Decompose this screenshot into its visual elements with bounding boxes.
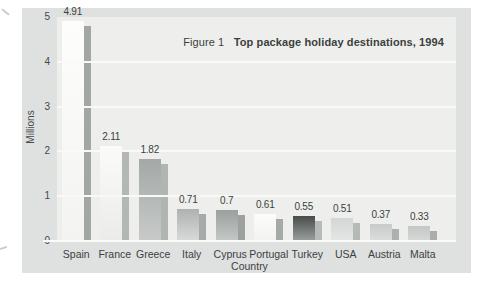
bar-chart: Figure 1 Top package holiday destination…	[22, 8, 471, 273]
bar-france	[100, 146, 129, 241]
bar-usa	[331, 218, 360, 241]
bar-cyprus	[216, 210, 245, 241]
gridline-3	[57, 106, 456, 108]
bar-value-label-malta: 0.33	[389, 211, 449, 222]
bar-side-shadow-italy	[199, 214, 206, 241]
bar-face-usa	[331, 218, 353, 241]
bar-face-austria	[370, 224, 392, 241]
chart-title: Figure 1 Top package holiday destination…	[183, 35, 444, 49]
bar-face-france	[100, 146, 122, 241]
bar-austria	[370, 224, 399, 241]
chart-title-prefix: Figure 1	[183, 36, 224, 48]
bar-value-label-spain: 4.91	[43, 6, 103, 17]
bar-value-label-france: 2.11	[81, 131, 141, 142]
y-tick-label-1: 1	[30, 190, 50, 202]
bar-malta	[408, 226, 437, 241]
chart-title-main: Top package holiday destinations, 1994	[234, 36, 444, 48]
bar-turkey	[293, 216, 322, 241]
scanned-page: Figure 1 Top package holiday destination…	[0, 0, 478, 282]
bar-italy	[177, 209, 206, 241]
gridline-4	[57, 61, 456, 63]
bar-portugal	[254, 214, 283, 241]
bar-side-shadow-turkey	[315, 221, 322, 241]
y-tick-label-3: 3	[30, 101, 50, 113]
y-tick-label-2: 2	[30, 145, 50, 157]
bar-face-italy	[177, 209, 199, 241]
bar-face-malta	[408, 226, 430, 241]
bar-face-cyprus	[216, 210, 238, 241]
x-category-label-malta: Malta	[393, 248, 453, 260]
y-tick-label-4: 4	[30, 56, 50, 68]
bar-side-shadow-cyprus	[238, 215, 245, 241]
bar-face-turkey	[293, 216, 315, 241]
scan-artifact-top	[1, 8, 9, 15]
scan-artifact-bottom	[0, 246, 7, 250]
x-axis-title: Country	[57, 260, 442, 272]
bar-value-label-greece: 1.82	[120, 144, 180, 155]
x-axis-baseline	[43, 240, 456, 242]
bar-side-shadow-portugal	[276, 219, 283, 241]
bar-side-shadow-usa	[353, 223, 360, 241]
bar-face-portugal	[254, 214, 276, 241]
gridline-2	[57, 150, 456, 152]
